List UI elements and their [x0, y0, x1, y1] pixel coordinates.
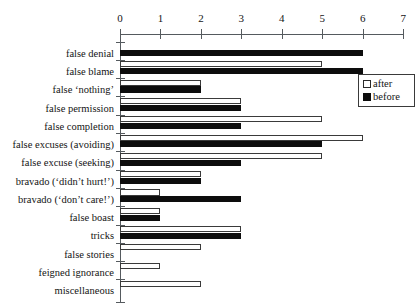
x-axis-tick-label: 4	[272, 13, 292, 24]
category-label: tricks	[91, 230, 114, 241]
bar-after	[120, 80, 201, 86]
category-label: false blame	[66, 66, 114, 77]
x-axis-tick	[160, 29, 161, 39]
bar-after	[120, 98, 241, 104]
category-label-column: false denial false blame false ‘nothing’…	[0, 0, 114, 298]
category-label: miscellaneous	[55, 285, 114, 296]
bar-before	[120, 141, 322, 147]
bar-before	[120, 178, 201, 184]
category-label: false denial	[66, 48, 114, 59]
chart-legend: after before	[358, 74, 415, 107]
legend-label-before: before	[373, 91, 400, 102]
bar-after	[120, 189, 160, 195]
category-label: false excuse (seeking)	[21, 157, 114, 168]
bar-after	[120, 171, 201, 177]
x-axis-tick-label: 0	[110, 13, 130, 24]
bar-after	[120, 263, 160, 269]
x-axis-tick	[282, 29, 283, 39]
category-label: feigned ignorance	[38, 267, 114, 278]
bar-before	[120, 68, 363, 74]
legend-item-before: before	[363, 90, 410, 103]
bar-after	[120, 281, 201, 287]
bar-before	[120, 123, 241, 129]
y-axis-tick	[116, 42, 125, 43]
bar-before	[120, 215, 160, 221]
category-label: false ‘nothing’	[52, 84, 114, 95]
bar-before	[120, 233, 241, 239]
x-axis-tick	[363, 29, 364, 39]
bar-after	[120, 153, 322, 159]
x-axis-tick	[120, 29, 121, 39]
category-label: false excuses (avoiding)	[13, 139, 114, 150]
bar-before	[120, 160, 241, 166]
x-axis-tick	[322, 29, 323, 39]
x-axis-tick-label: 6	[353, 13, 373, 24]
y-axis-tick	[116, 279, 125, 280]
bar-before	[120, 50, 363, 56]
x-axis-tick-label: 3	[231, 13, 251, 24]
x-axis-tick	[241, 29, 242, 39]
legend-swatch-after-icon	[363, 80, 371, 88]
category-label: false boast	[69, 212, 114, 223]
bar-after	[120, 244, 201, 250]
bar-after	[120, 61, 322, 67]
legend-swatch-before-icon	[363, 93, 371, 101]
category-label: bravado (‘didn’t hurt!’)	[16, 176, 114, 187]
x-axis-tick-label: 1	[150, 13, 170, 24]
category-label: false permission	[45, 103, 114, 114]
category-label: bravado (‘don’t care!’)	[18, 194, 114, 205]
x-axis-tick	[201, 29, 202, 39]
x-axis-line	[120, 34, 403, 35]
bar-after	[120, 226, 241, 232]
x-axis-tick-label: 7	[393, 13, 413, 24]
bar-before	[120, 196, 241, 202]
legend-item-after: after	[363, 77, 410, 90]
y-axis-tick	[116, 96, 125, 97]
x-axis-tick-label: 2	[191, 13, 211, 24]
bar-after	[120, 135, 363, 141]
x-axis-tick-label: 5	[312, 13, 332, 24]
bar-before	[120, 105, 241, 111]
legend-label-after: after	[373, 78, 392, 89]
x-axis-tick	[403, 29, 404, 39]
bar-after	[120, 208, 160, 214]
category-label: false stories	[64, 249, 114, 260]
category-label: false completion	[44, 121, 114, 132]
bar-before	[120, 86, 201, 92]
bar-after	[120, 116, 322, 122]
